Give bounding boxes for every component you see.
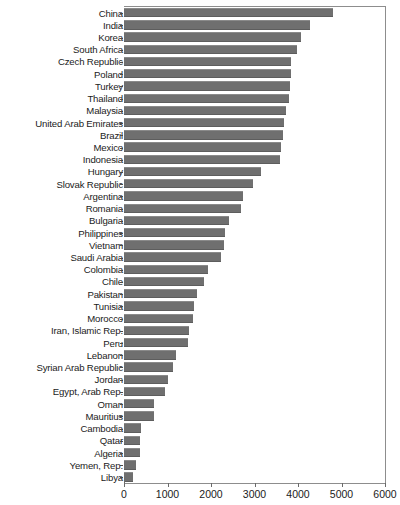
bar-track xyxy=(124,326,189,335)
bar-track xyxy=(124,106,286,115)
bar xyxy=(124,81,290,90)
bar-track xyxy=(124,94,289,103)
bar-track xyxy=(124,301,194,310)
category-label: Lebanon xyxy=(0,350,123,361)
category-label: Mauritius xyxy=(0,411,123,422)
bar-track xyxy=(124,142,281,151)
bar xyxy=(124,289,197,298)
bar xyxy=(124,252,221,261)
category-tick xyxy=(120,258,123,259)
category-label: Korea xyxy=(0,32,123,43)
bar xyxy=(124,472,133,481)
x-axis-tick-label: 6000 xyxy=(373,488,396,500)
bar-track xyxy=(124,460,136,469)
category-tick xyxy=(120,306,123,307)
bar-row: Mauritius xyxy=(0,410,400,422)
bar xyxy=(124,448,140,457)
bar-track xyxy=(124,57,291,66)
category-label: Qatar xyxy=(0,435,123,446)
bar-track xyxy=(124,8,333,17)
plot-frame-top xyxy=(124,6,386,7)
category-label: China xyxy=(0,8,123,19)
bar xyxy=(124,204,241,213)
category-tick xyxy=(120,184,123,185)
category-tick xyxy=(120,209,123,210)
bar-row: Oman xyxy=(0,398,400,410)
bar-track xyxy=(124,350,176,359)
category-tick xyxy=(120,38,123,39)
bar-track xyxy=(124,240,224,249)
x-axis-tick xyxy=(124,483,125,487)
category-tick xyxy=(120,343,123,344)
x-axis-tick-label: 1000 xyxy=(156,488,179,500)
category-tick xyxy=(120,196,123,197)
bar-track xyxy=(124,472,133,481)
bar-row: Yemen, Rep. xyxy=(0,459,400,471)
category-label: Egypt, Arab Rep. xyxy=(0,386,123,397)
bar-row: Saudi Arabia xyxy=(0,251,400,263)
bar xyxy=(124,191,243,200)
category-label: Peru xyxy=(0,338,123,349)
bar-row: India xyxy=(0,19,400,31)
bar-row: Romania xyxy=(0,203,400,215)
bar-row: Peru xyxy=(0,337,400,349)
bar xyxy=(124,32,301,41)
category-tick xyxy=(120,62,123,63)
bar-row: Jordan xyxy=(0,374,400,386)
bar-track xyxy=(124,387,165,396)
bar xyxy=(124,460,136,469)
category-label: Oman xyxy=(0,399,123,410)
bar xyxy=(124,179,253,188)
category-label: Slovak Republic xyxy=(0,179,123,190)
bar xyxy=(124,57,291,66)
category-tick xyxy=(120,13,123,14)
bar-track xyxy=(124,411,154,420)
bar-row: Libya xyxy=(0,471,400,483)
bar xyxy=(124,277,204,286)
bar-track xyxy=(124,167,261,176)
bar-row: Hungary xyxy=(0,166,400,178)
bar-row: Syrian Arab Republic xyxy=(0,361,400,373)
category-label: Yemen, Rep. xyxy=(0,460,123,471)
category-label: Libya xyxy=(0,472,123,483)
bar-row: South Africa xyxy=(0,44,400,56)
bar-track xyxy=(124,216,229,225)
bar-row: Bulgaria xyxy=(0,215,400,227)
bar-row: Philippines xyxy=(0,227,400,239)
bar-row: Lebanon xyxy=(0,349,400,361)
category-label: Indonesia xyxy=(0,154,123,165)
category-tick xyxy=(120,270,123,271)
bar-track xyxy=(124,362,173,371)
bar-track xyxy=(124,69,291,78)
bar-row: Mexico xyxy=(0,141,400,153)
bar-row: Egypt, Arab Rep. xyxy=(0,386,400,398)
x-axis-tick xyxy=(211,483,212,487)
bar-row: Qatar xyxy=(0,435,400,447)
bar xyxy=(124,240,224,249)
category-tick xyxy=(120,123,123,124)
bar-row: Tunisia xyxy=(0,300,400,312)
bar xyxy=(124,265,208,274)
bar-track xyxy=(124,45,297,54)
category-label: Cambodia xyxy=(0,423,123,434)
bar xyxy=(124,362,173,371)
category-tick xyxy=(120,233,123,234)
bar-track xyxy=(124,423,141,432)
category-label: Syrian Arab Republic xyxy=(0,362,123,373)
bar-track xyxy=(124,118,284,127)
bar-track xyxy=(124,277,204,286)
bar-track xyxy=(124,375,168,384)
category-label: Vietnam xyxy=(0,240,123,251)
category-tick xyxy=(120,416,123,417)
bar-row: United Arab Emirates xyxy=(0,117,400,129)
category-label: Pakistan xyxy=(0,289,123,300)
bar-row: Thailand xyxy=(0,93,400,105)
bar-track xyxy=(124,32,301,41)
bar xyxy=(124,228,225,237)
category-tick xyxy=(120,441,123,442)
category-label: Morocco xyxy=(0,313,123,324)
bar xyxy=(124,118,284,127)
bar xyxy=(124,387,165,396)
category-label: Brazil xyxy=(0,130,123,141)
category-label: Iran, Islamic Rep. xyxy=(0,325,123,336)
